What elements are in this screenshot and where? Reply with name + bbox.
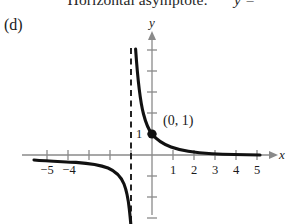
x-tick-label--4: −4 (62, 163, 76, 177)
x-axis-arrowhead (269, 151, 278, 159)
y-intercept-tick-label: 1 (136, 127, 142, 141)
x-tick-label-3: 3 (212, 163, 218, 177)
plot-area: x y (0, 1) 1 −5 −4 1 2 3 4 5 (0, 0, 297, 224)
figure-root: Horizontal asymptote:y = (d) (0, 0, 297, 224)
x-tick-label-2: 2 (191, 163, 197, 177)
x-tick-label-5: 5 (254, 163, 260, 177)
point-annotation-label: (0, 1) (163, 113, 194, 129)
x-tick-label-4: 4 (233, 163, 240, 177)
y-axis-label: y (147, 15, 155, 30)
graph-svg: x y (0, 1) 1 −5 −4 1 2 3 4 5 (0, 0, 297, 224)
y-axis (148, 31, 156, 215)
y-axis-arrowhead (148, 31, 156, 40)
x-tick-label--5: −5 (40, 163, 53, 177)
point-marker-0-1 (147, 129, 156, 138)
x-tick-label-1: 1 (170, 163, 176, 177)
x-axis-label: x (278, 147, 285, 162)
curve-branch-right (136, 49, 260, 155)
